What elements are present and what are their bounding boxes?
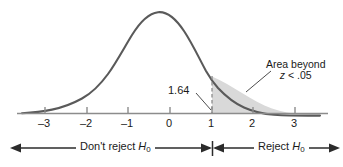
tail-shaded-region	[212, 77, 320, 115]
tick-label-minus-2: –2	[80, 118, 92, 129]
tick-label-1: 1	[208, 118, 214, 129]
normal-distribution-figure: –3 –2 –1 0 1 2 3 1.64 Area beyond z < .0…	[0, 0, 343, 167]
critical-value-label: 1.64	[168, 85, 189, 96]
tick-label-3: 3	[291, 118, 297, 129]
dont-reject-label-text: Don't reject	[80, 140, 138, 152]
dont-reject-label: Don't reject H0	[76, 141, 155, 152]
reject-label: Reject H0	[254, 141, 309, 152]
reject-label-h: H	[292, 140, 300, 152]
tick-label-0: 0	[166, 118, 172, 129]
dont-reject-label-sub: 0	[146, 145, 150, 154]
tail-area-annotation: Area beyond z < .05	[266, 59, 326, 80]
tick-label-minus-1: –1	[121, 118, 133, 129]
critical-value-leader-line	[196, 93, 211, 110]
tail-area-annotation-value: < .05	[285, 69, 312, 81]
tick-label-minus-3: –3	[38, 118, 50, 129]
reject-label-sub: 0	[300, 145, 304, 154]
reject-label-text: Reject	[258, 140, 292, 152]
tick-label-2: 2	[249, 118, 255, 129]
